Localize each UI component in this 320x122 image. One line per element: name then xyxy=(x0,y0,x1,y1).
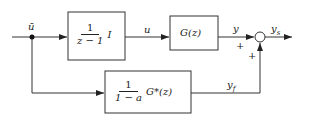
yf-label: yf xyxy=(227,80,235,93)
integrator-block: 1z − 1 I xyxy=(77,22,111,47)
plus-sign-top: + xyxy=(236,41,244,51)
plus-sign-bottom: + xyxy=(248,51,256,61)
ys-label: ys xyxy=(271,24,280,37)
plant-block: G(z) xyxy=(180,27,201,38)
u-label: u xyxy=(144,25,150,35)
y-label: y xyxy=(233,24,239,34)
input-label: ū xyxy=(28,22,34,32)
filter-block: 11 − a G*(z) xyxy=(115,79,172,104)
